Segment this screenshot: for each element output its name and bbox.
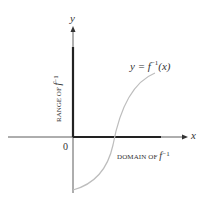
graph-canvas: [0, 0, 203, 205]
domain-label: DOMAIN OF f−1: [117, 150, 170, 161]
range-label: RANGE OF f−1: [52, 75, 63, 122]
origin-label: 0: [63, 141, 68, 152]
curve-label-arg: (x): [158, 60, 170, 72]
x-axis-label: x: [191, 129, 196, 141]
y-axis-arrow-icon: [71, 26, 76, 32]
curve-label: y = f−1(x): [130, 60, 171, 72]
x-axis-arrow-icon: [182, 135, 188, 140]
domain-label-exponent: −1: [162, 150, 170, 158]
inverse-function-curve: [73, 73, 155, 190]
range-label-text: RANGE OF: [55, 85, 63, 122]
range-label-func: f: [52, 83, 63, 86]
y-axis-label: y: [70, 12, 75, 24]
curve-label-lhs: y =: [130, 60, 148, 72]
domain-label-text: DOMAIN OF: [117, 153, 159, 161]
range-label-exponent: −1: [52, 75, 60, 82]
